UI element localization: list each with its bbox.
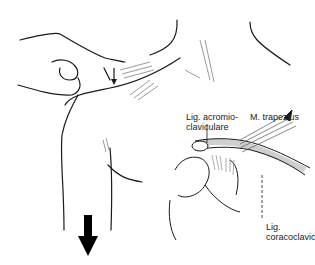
label-line: coracoclaviculare	[266, 232, 315, 242]
neck-line-left	[150, 20, 177, 55]
arm-outline-left	[61, 95, 78, 230]
label-m-trapezius: M. trapezius	[250, 112, 299, 122]
label-line: Lig. acromio-	[186, 112, 238, 122]
label-lig-acromioclaviculare: Lig. acromio- claviculare	[186, 112, 238, 132]
label-line: Lig.	[266, 222, 315, 232]
label-line: claviculare	[186, 122, 238, 132]
traction-arrow-icon	[78, 215, 98, 256]
anatomy-figure: Lig. acromio- claviculare M. trapezius L…	[0, 0, 315, 265]
label-line: M. trapezius	[250, 112, 299, 122]
ligament-hatching	[212, 155, 234, 175]
label-lig-coracoclaviculare: Lig. coracoclaviculare	[266, 222, 315, 242]
hand-thumb	[52, 60, 78, 80]
arm-outline-right	[110, 148, 112, 230]
neck-line-right	[250, 22, 290, 65]
hand-index-finger	[20, 33, 125, 62]
pressure-arrow-icon	[111, 68, 117, 85]
